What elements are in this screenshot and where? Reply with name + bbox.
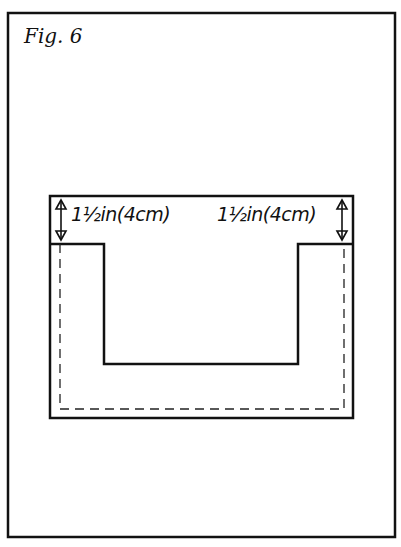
figure-frame <box>8 13 395 537</box>
figure-title: Fig. 6 <box>24 24 83 48</box>
measure-label-left: 1½in(4cm) <box>71 203 170 225</box>
pattern-diagram <box>0 0 401 547</box>
double-arrow-left-icon <box>56 200 66 240</box>
measure-label-right: 1½in(4cm) <box>217 203 316 225</box>
seam-allowance-dashed <box>60 244 344 409</box>
band-line <box>50 244 353 364</box>
pattern-piece-outline <box>50 196 353 418</box>
double-arrow-right-icon <box>337 200 347 240</box>
